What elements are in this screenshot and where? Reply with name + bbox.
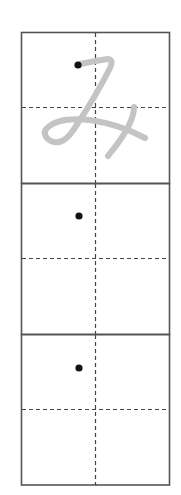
stroke-start-dot — [75, 212, 82, 219]
stroke-start-dot — [75, 364, 82, 371]
practice-box-2[interactable] — [22, 184, 170, 335]
stroke-start-dot — [74, 61, 81, 68]
writing-practice-sheet — [0, 0, 181, 495]
practice-box-3[interactable] — [22, 335, 170, 486]
practice-box-1 — [22, 33, 170, 184]
